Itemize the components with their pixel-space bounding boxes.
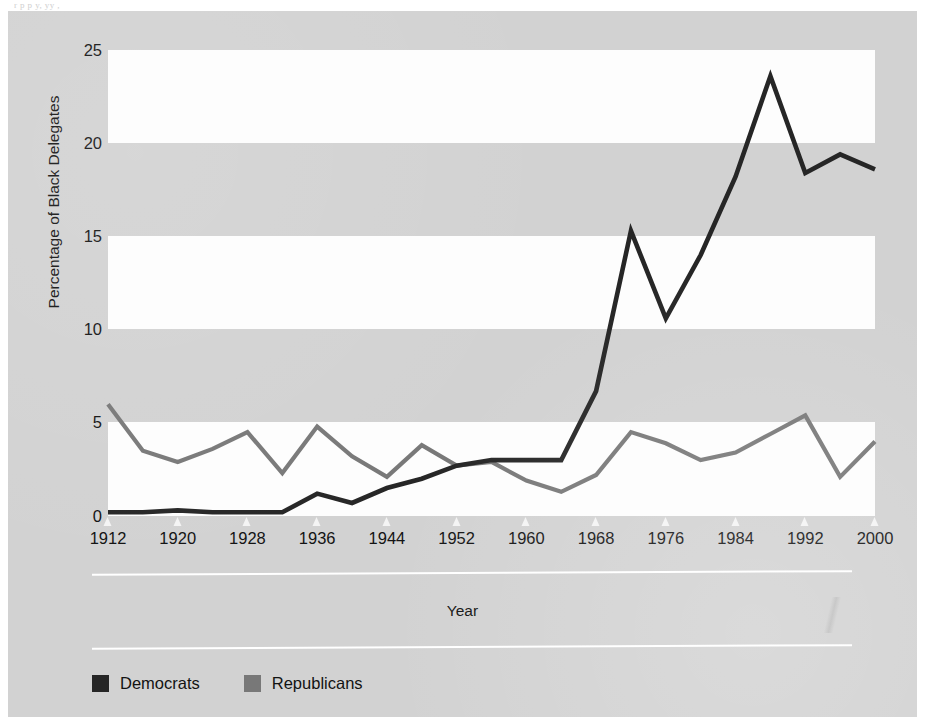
x-tick-label: 1912	[90, 529, 127, 548]
line-republicans	[108, 404, 875, 492]
chart-figure-panel: 25 20 15 10 5 0 Percentage of Black Dele…	[8, 11, 917, 717]
y-tick-label: 15	[68, 227, 102, 246]
x-tick-label: 1928	[229, 529, 266, 548]
x-axis-tick-marker	[661, 517, 669, 526]
x-axis-tick-marker	[871, 517, 879, 526]
chart-legend: Democrats Republicans	[92, 674, 363, 693]
y-tick-label: 25	[68, 41, 102, 60]
line-democrats	[108, 76, 875, 512]
series-lines	[108, 50, 875, 516]
separator-rule-bottom	[92, 644, 852, 650]
x-axis-tick-marker	[382, 517, 390, 526]
x-tick-label: 1984	[717, 529, 754, 548]
x-tick-label: 1920	[159, 529, 196, 548]
legend-swatch-icon	[244, 675, 261, 692]
x-tick-label: 1992	[787, 529, 824, 548]
x-axis-tick-marker	[801, 517, 809, 526]
separator-rule-top	[92, 570, 852, 576]
scan-bleed-through-text: r p p y, yy ,	[14, 0, 894, 10]
x-axis-tick-marker	[452, 517, 460, 526]
y-axis-title: Percentage of Black Delegates	[45, 72, 63, 332]
x-tick-label: 1936	[299, 529, 336, 548]
legend-item-democrats: Democrats	[92, 674, 200, 693]
y-tick-label: 5	[68, 413, 102, 432]
x-axis-title: Year	[8, 602, 917, 620]
x-axis-tick-marker	[243, 517, 251, 526]
plot-area	[108, 50, 875, 516]
x-axis-tick-marker	[731, 517, 739, 526]
x-tick-label: 1960	[508, 529, 545, 548]
legend-item-republicans: Republicans	[244, 674, 363, 693]
x-axis-tick-marker	[104, 517, 112, 526]
y-tick-label: 10	[68, 320, 102, 339]
legend-label: Democrats	[120, 674, 200, 693]
page-root: r p p y, yy , 25 20 15 10 5 0	[0, 0, 927, 725]
x-tick-label: 1968	[578, 529, 615, 548]
x-axis: 1912192019281936194419521960196819761984…	[8, 516, 917, 562]
x-axis-tick-marker	[173, 517, 181, 526]
x-axis-tick-marker	[522, 517, 530, 526]
x-tick-label: 1976	[647, 529, 684, 548]
y-axis: 25 20 15 10 5 0	[60, 50, 102, 516]
y-tick-label: 20	[68, 134, 102, 153]
legend-label: Republicans	[272, 674, 363, 693]
legend-swatch-icon	[92, 675, 109, 692]
x-tick-label: 1944	[369, 529, 406, 548]
x-tick-label: 2000	[857, 529, 894, 548]
x-tick-label: 1952	[438, 529, 475, 548]
x-axis-tick-marker	[313, 517, 321, 526]
x-axis-tick-marker	[592, 517, 600, 526]
